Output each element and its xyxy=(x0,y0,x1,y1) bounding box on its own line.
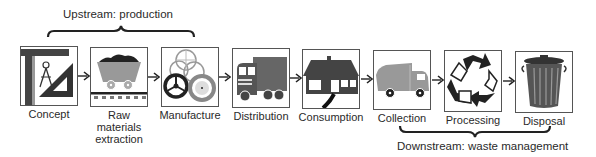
house-icon xyxy=(303,50,359,108)
garbage-truck-icon xyxy=(374,51,430,109)
wheels-icon xyxy=(162,48,218,106)
raw-materials-label-line-1: Raw xyxy=(108,109,130,121)
concept-box xyxy=(20,46,78,106)
arrow-right-icon xyxy=(503,76,515,86)
arrow-right-icon xyxy=(361,74,373,84)
arrow-right-icon xyxy=(148,72,160,82)
disposal-box xyxy=(515,51,573,113)
downstream-label: Downstream: waste management xyxy=(397,140,568,152)
consumption-box xyxy=(302,49,360,109)
manufacture-box xyxy=(161,47,219,107)
raw-materials-label-line-3: extraction xyxy=(95,133,143,145)
distribution-box xyxy=(232,48,290,108)
arrow-right-icon xyxy=(219,72,231,82)
truck-icon xyxy=(233,49,289,107)
trash-can-icon xyxy=(516,52,572,110)
arrow-right-icon xyxy=(290,73,302,83)
raw-materials-label-line-2: materials xyxy=(97,121,142,133)
arrow-right-icon xyxy=(432,75,444,85)
upstream-brace xyxy=(46,25,196,39)
arrow-right-icon xyxy=(78,71,90,81)
drafting-tools-icon xyxy=(21,47,77,105)
recycle-icon xyxy=(445,51,501,109)
mine-cart-icon xyxy=(91,48,147,106)
processing-box xyxy=(444,50,502,112)
upstream-label: Upstream: production xyxy=(63,8,173,20)
raw-materials-box xyxy=(90,47,148,107)
collection-box xyxy=(373,50,431,110)
downstream-brace xyxy=(398,124,552,138)
